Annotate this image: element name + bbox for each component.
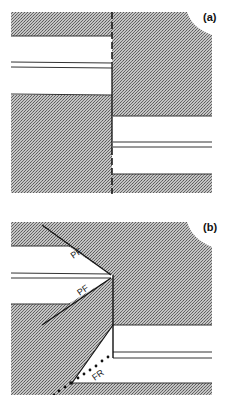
panel-a-label: (a): [203, 11, 217, 23]
panel-b-label: (b): [203, 221, 217, 233]
panel-a-right-lower-rock: [112, 174, 212, 193]
panel-a-left-mid-line-2: [11, 67, 112, 68]
panel-a-left-mid-line-1: [11, 62, 112, 63]
panel-b: PF PF FR (b): [11, 221, 217, 395]
panel-a-left-bed-bottom: [11, 94, 112, 95]
panel-b-fr-label: FR: [90, 367, 106, 382]
panel-a-right-upper-rock: [112, 12, 212, 116]
panel-a: (a): [11, 11, 217, 194]
figure-canvas: (a): [0, 0, 226, 395]
panel-a-left-lower-rock: [11, 95, 112, 193]
panel-a-left-upper-rock: [11, 12, 112, 36]
panel-b-left-mid-line-1: [11, 273, 111, 274]
